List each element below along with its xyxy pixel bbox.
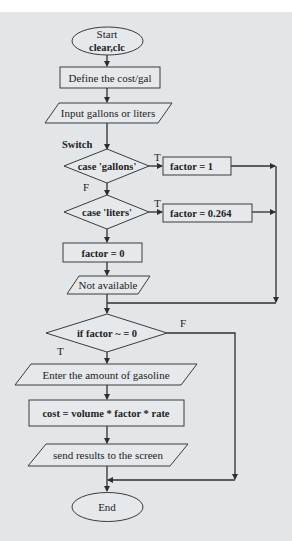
- if-false-label: F: [180, 317, 186, 329]
- factor-0-label: factor = 0: [81, 248, 124, 259]
- enter-amount-label: Enter the amount of gasoline: [42, 369, 169, 381]
- define-cost-process: Define the cost/gal: [60, 67, 160, 88]
- define-label: Define the cost/gal: [68, 72, 151, 84]
- cost-label: cost = volume * factor * rate: [42, 408, 169, 419]
- liters-true-label: T: [154, 197, 161, 209]
- input-io: Input gallons or liters: [45, 103, 172, 123]
- input-label: Input gallons or liters: [61, 107, 155, 119]
- enter-amount-io: Enter the amount of gasoline: [15, 364, 197, 385]
- factor-1-label: factor = 1: [170, 161, 213, 172]
- start-terminal: Start clear,clc: [72, 27, 143, 55]
- case-liters-label: case 'liters': [82, 207, 132, 218]
- if-factor-label: if factor ~ = 0: [77, 328, 137, 339]
- end-label: End: [98, 501, 116, 513]
- end-terminal: End: [72, 493, 143, 522]
- start-command: clear,clc: [89, 42, 125, 53]
- send-results-label: send results to the screen: [53, 449, 163, 461]
- not-available-io: Not available: [67, 276, 150, 294]
- cost-process: cost = volume * factor * rate: [29, 400, 184, 426]
- case-gallons-decision: case 'gallons': [64, 149, 149, 183]
- if-true-label: T: [57, 345, 64, 357]
- case-liters-decision: case 'liters': [64, 195, 149, 229]
- if-factor-decision: if factor ~ = 0: [46, 314, 167, 352]
- not-available-label: Not available: [79, 279, 138, 291]
- factor-1-process: factor = 1: [163, 157, 231, 175]
- start-label: Start: [97, 28, 118, 40]
- factor-0264-process: factor = 0.264: [163, 204, 252, 222]
- factor-0-process: factor = 0: [63, 243, 142, 262]
- switch-label: Switch: [62, 139, 92, 150]
- case-gallons-label: case 'gallons': [78, 161, 137, 172]
- flowchart: Start clear,clc Define the cost/gal Inpu…: [0, 0, 292, 541]
- gallons-true-label: T: [154, 151, 161, 163]
- factor-0264-label: factor = 0.264: [170, 208, 232, 219]
- send-results-io: send results to the screen: [28, 444, 188, 466]
- gallons-false-label: F: [83, 181, 89, 193]
